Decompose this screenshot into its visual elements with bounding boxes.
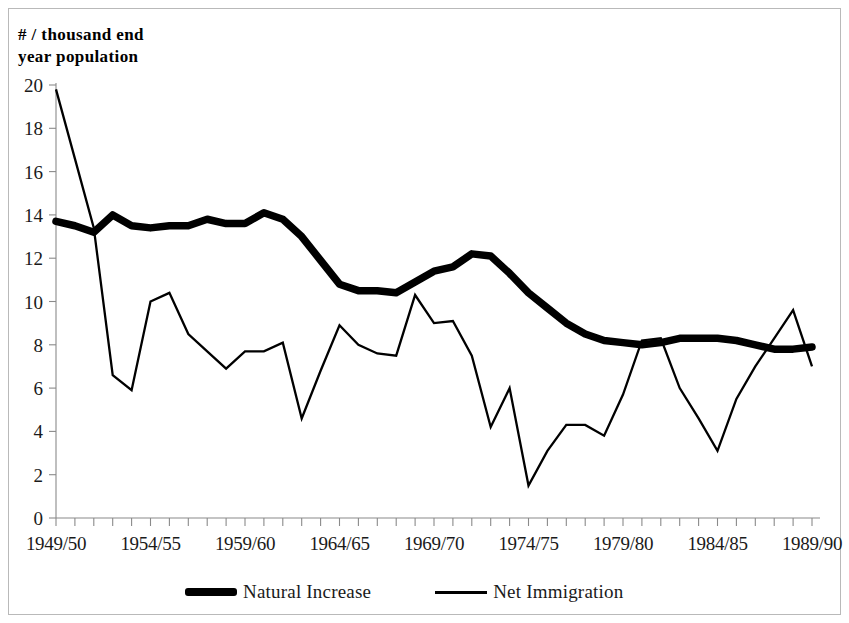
series-line-natural-increase	[56, 213, 812, 349]
legend-swatch-natural-increase	[185, 588, 237, 596]
x-tick-label: 1979/80	[593, 533, 653, 554]
x-tick-label: 1974/75	[498, 533, 558, 554]
chart-page: # / thousand end year population 0246810…	[0, 0, 849, 623]
y-tick-label: 12	[24, 248, 43, 269]
series-line-net-immigration	[56, 89, 812, 485]
chart-legend: Natural Increase Net Immigration	[185, 575, 685, 609]
legend-swatch-net-immigration	[435, 591, 487, 594]
x-tick-label: 1984/85	[687, 533, 747, 554]
line-chart: 024681012141618201949/501954/551959/6019…	[0, 0, 849, 623]
x-tick-label: 1989/90	[782, 533, 842, 554]
plot-area: 024681012141618201949/501954/551959/6019…	[0, 0, 849, 623]
legend-label-net-immigration: Net Immigration	[493, 581, 623, 603]
x-tick-label: 1964/65	[309, 533, 369, 554]
x-tick-label: 1969/70	[404, 533, 464, 554]
y-tick-label: 16	[24, 162, 43, 183]
x-tick-label: 1954/55	[120, 533, 180, 554]
legend-label-natural-increase: Natural Increase	[243, 581, 371, 603]
y-tick-label: 10	[24, 292, 43, 313]
y-tick-label: 4	[34, 421, 44, 442]
legend-item-natural-increase: Natural Increase	[185, 581, 371, 603]
y-tick-label: 14	[24, 205, 44, 226]
y-tick-label: 8	[34, 335, 44, 356]
y-tick-label: 6	[34, 378, 44, 399]
y-tick-label: 20	[24, 75, 43, 96]
y-tick-label: 0	[34, 508, 44, 529]
y-tick-label: 2	[34, 465, 44, 486]
x-tick-label: 1949/50	[26, 533, 86, 554]
legend-item-net-immigration: Net Immigration	[435, 581, 623, 603]
y-tick-label: 18	[24, 118, 43, 139]
x-tick-label: 1959/60	[215, 533, 275, 554]
